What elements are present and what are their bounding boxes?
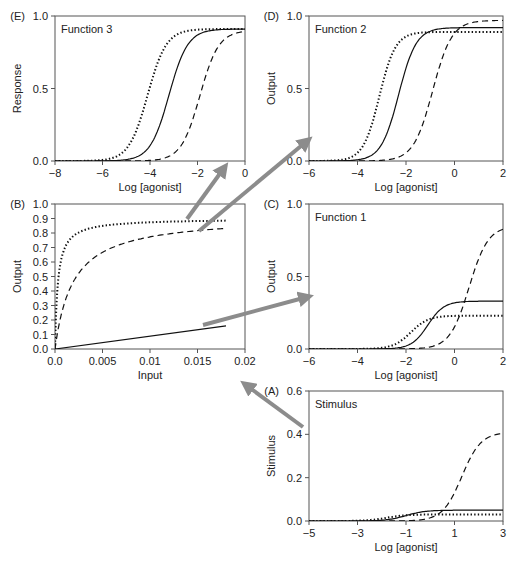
panel-title: Stimulus [315, 398, 358, 410]
curve-dotted [309, 316, 503, 349]
x-tick-label: −2 [400, 167, 413, 179]
x-axis-label: Log [agonist] [375, 369, 438, 381]
x-tick-label: −6 [303, 355, 316, 367]
y-tick-label: 0.0 [33, 343, 48, 355]
arrow-icon [199, 141, 307, 231]
x-axis-label: Log [agonist] [375, 541, 438, 553]
panel-label: (A) [264, 385, 279, 397]
x-tick-label: −6 [96, 167, 109, 179]
panel-title: Function 2 [315, 23, 366, 35]
plot-frame [309, 204, 503, 349]
panel-label: (D) [264, 10, 279, 22]
y-tick-label: 0.0 [33, 155, 48, 167]
y-tick-label: 0.5 [287, 83, 302, 95]
x-tick-label: 0.005 [89, 355, 117, 367]
curve-dashed [55, 228, 226, 349]
curve-solid [309, 301, 503, 349]
y-tick-label: 0.0 [287, 515, 302, 527]
panel-label: (B) [10, 198, 25, 210]
x-tick-label: 0 [451, 355, 457, 367]
x-axis-label: Input [138, 369, 162, 381]
curve-solid [55, 326, 226, 349]
curve-dashed [309, 229, 503, 349]
panel-label: (C) [264, 198, 279, 210]
panel-C: 0.00.51.0−6−4−202(C)Function 1Log [agoni… [264, 198, 506, 381]
y-tick-label: 0.4 [287, 428, 302, 440]
y-tick-label: 0.5 [33, 83, 48, 95]
y-tick-label: 0.2 [287, 472, 302, 484]
x-tick-label: 0 [451, 167, 457, 179]
y-tick-label: 0.7 [33, 242, 48, 254]
y-tick-label: 0.6 [33, 256, 48, 268]
x-tick-label: −4 [351, 355, 364, 367]
x-axis-label: Log [agonist] [119, 181, 182, 193]
x-tick-label: −6 [303, 167, 316, 179]
panel-E: 0.00.51.0−8−6−4−20(E)Function 3Log [agon… [10, 10, 248, 193]
y-axis-label: Response [11, 64, 23, 114]
y-tick-label: 0.5 [33, 271, 48, 283]
x-tick-label: −8 [49, 167, 62, 179]
figure-canvas: 0.00.51.0−8−6−4−20(E)Function 3Log [agon… [0, 0, 513, 563]
y-tick-label: 0.6 [287, 385, 302, 397]
x-tick-label: −3 [351, 527, 364, 539]
arrow-icon [203, 297, 307, 325]
curve-dotted [309, 515, 503, 522]
panel-title: Function 3 [61, 23, 112, 35]
curve-dotted [309, 32, 503, 161]
y-tick-label: 0.4 [33, 285, 48, 297]
panel-D: 0.00.51.0−6−4−202(D)Function 2Log [agoni… [264, 10, 506, 193]
x-tick-label: 3 [500, 527, 506, 539]
panel-title: Function 1 [315, 211, 366, 223]
plot-frame [309, 16, 503, 161]
y-tick-label: 0.0 [287, 343, 302, 355]
y-tick-label: 1.0 [33, 10, 48, 22]
x-tick-label: 0.01 [139, 355, 160, 367]
y-tick-label: 0.3 [33, 300, 48, 312]
x-tick-label: 1 [451, 527, 457, 539]
y-tick-label: 0.1 [33, 329, 48, 341]
x-tick-label: 2 [500, 167, 506, 179]
y-axis-label: Output [11, 260, 23, 293]
curve-dashed [309, 20, 503, 161]
x-tick-label: −2 [400, 355, 413, 367]
x-tick-label: −4 [144, 167, 157, 179]
y-axis-label: Output [265, 260, 277, 293]
curve-dashed [55, 32, 245, 161]
x-tick-label: −4 [351, 167, 364, 179]
y-tick-label: 0.5 [287, 271, 302, 283]
plot-frame [55, 16, 245, 161]
plot-frame [309, 391, 503, 521]
x-tick-label: −5 [303, 527, 316, 539]
y-tick-label: 1.0 [287, 198, 302, 210]
x-tick-label: −2 [191, 167, 204, 179]
panel-A: 0.00.20.40.6−5−3−113(A)StimulusLog [agon… [264, 385, 506, 553]
y-axis-label: Output [265, 72, 277, 105]
panel-label: (E) [10, 10, 25, 22]
y-tick-label: 1.0 [287, 10, 302, 22]
curve-dashed [309, 433, 503, 521]
x-tick-label: 0 [242, 167, 248, 179]
x-axis-label: Log [agonist] [375, 181, 438, 193]
y-tick-label: 0.2 [33, 314, 48, 326]
y-tick-label: 0.8 [33, 227, 48, 239]
y-tick-label: 0.9 [33, 213, 48, 225]
panel-B: 0.00.10.20.30.40.50.60.70.80.91.00.00.00… [10, 198, 255, 381]
x-tick-label: −1 [400, 527, 413, 539]
curve-solid [309, 28, 503, 161]
x-tick-label: 0.02 [234, 355, 255, 367]
x-tick-label: 0.015 [184, 355, 212, 367]
y-tick-label: 1.0 [33, 198, 48, 210]
x-tick-label: 0.0 [47, 355, 62, 367]
x-tick-label: 2 [500, 355, 506, 367]
y-axis-label: Stimulus [265, 434, 277, 477]
